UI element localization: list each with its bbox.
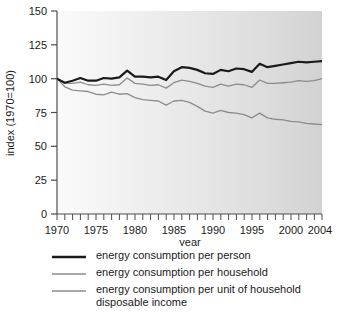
y-tick-label: 25	[35, 174, 47, 186]
legend-label: energy consumption per household	[96, 266, 268, 279]
legend-item-per-unit-income: energy consumption per unit of household…	[52, 283, 301, 309]
x-tick-label: 1990	[201, 224, 225, 236]
x-axis-minor-ticks	[57, 214, 322, 220]
line-chart: 0 25 50 75 100 125 150	[0, 0, 342, 246]
legend-item-per-household: energy consumption per household	[52, 266, 268, 279]
legend-swatch-per-person	[52, 255, 86, 259]
chart-figure: 0 25 50 75 100 125 150	[0, 0, 342, 326]
y-axis-ticks	[51, 11, 57, 214]
legend-swatch-per-unit-income	[52, 289, 86, 293]
y-tick-label: 125	[29, 39, 47, 51]
y-axis-title: index (1970=100)	[4, 70, 16, 156]
y-tick-label: 75	[35, 107, 47, 119]
legend-item-per-person: energy consumption per person	[52, 249, 251, 262]
legend-label: energy consumption per person	[96, 249, 251, 262]
y-tick-label: 150	[29, 5, 47, 17]
x-tick-label: 1970	[45, 224, 69, 236]
x-tick-label: 1995	[240, 224, 264, 236]
x-axis-tick-labels: 1970 1975 1980 1985 1990 1995 2000 2004	[45, 224, 332, 236]
x-tick-label: 1980	[123, 224, 147, 236]
y-tick-label: 0	[41, 208, 47, 220]
y-tick-label: 100	[29, 73, 47, 85]
x-tick-label: 2000	[279, 224, 303, 236]
x-axis-title: year	[179, 236, 201, 246]
legend-swatch-per-household	[52, 272, 86, 276]
plot-background	[57, 11, 322, 214]
x-tick-label: 2004	[308, 224, 332, 236]
y-axis-tick-labels: 0 25 50 75 100 125 150	[29, 5, 47, 220]
chart-legend: energy consumption per person energy con…	[0, 246, 342, 326]
x-tick-label: 1985	[162, 224, 186, 236]
legend-label: energy consumption per unit of household…	[96, 283, 301, 309]
x-tick-label: 1975	[84, 224, 108, 236]
y-tick-label: 50	[35, 140, 47, 152]
